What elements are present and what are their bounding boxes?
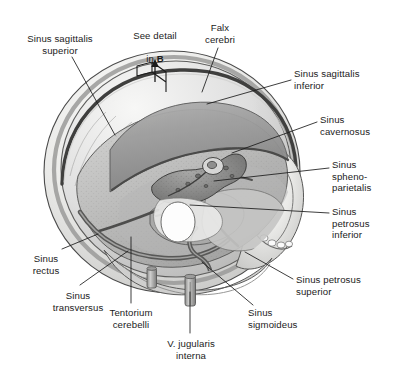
label-sinus-sigmoideus: Sinus sigmoideus — [248, 307, 320, 330]
label-falx-cerebri: Falx cerebri — [196, 22, 244, 45]
label-sinus-sphenoparietalis: Sinus spheno- parietalis — [332, 159, 392, 194]
hypophyseal-stalk-opening — [207, 161, 216, 168]
vessel-stump-left-body — [147, 268, 157, 288]
skull-body — [44, 51, 304, 306]
detail-marker-line2-bold: B — [157, 53, 164, 64]
foramen-magnum — [161, 202, 195, 242]
detail-marker-caption: See detail in B — [118, 18, 192, 64]
detail-marker-line1: See detail — [133, 30, 177, 41]
label-sinus-transversus: Sinus transversus — [40, 290, 116, 313]
label-sinus-petrosus-superior: Sinus petrosus superior — [296, 274, 392, 297]
label-sinus-cavernosus: Sinus cavernosus — [320, 114, 392, 137]
label-sinus-sagittalis-superior: Sinus sagittalis superior — [8, 33, 112, 56]
detail-marker-line2-prefix: in — [146, 53, 156, 64]
vessel-stump-left — [147, 267, 157, 288]
label-sinus-sagittalis-inferior: Sinus sagittalis inferior — [294, 68, 392, 91]
label-sinus-rectus: Sinus rectus — [18, 253, 74, 276]
label-vena-jugularis-interna: V. jugularis interna — [150, 338, 232, 361]
label-sinus-petrosus-inferior: Sinus petrosus inferior — [332, 206, 392, 241]
